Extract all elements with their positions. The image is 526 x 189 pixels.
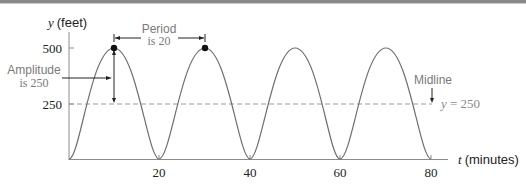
amplitude-label-line2: is 250 — [19, 76, 48, 90]
period-label-line2: is 20 — [147, 34, 170, 48]
xtick-60-label: 60 — [334, 165, 347, 180]
midline-label: Midline — [414, 73, 452, 87]
peak-point-2 — [202, 45, 208, 51]
period-arrowhead-left — [115, 36, 120, 40]
y-axis-label: y(feet) — [46, 15, 87, 30]
ytick-500-label: 500 — [43, 41, 63, 56]
xtick-20-label: 20 — [153, 165, 166, 180]
period-arrowhead-right — [199, 36, 204, 40]
midline-pointer-arrowhead — [430, 98, 434, 103]
ytick-250-label: 250 — [43, 97, 63, 112]
amplitude-label-line1: Amplitude — [7, 63, 61, 77]
xtick-80-label: 80 — [425, 165, 438, 180]
x-axis-label: t(minutes) — [458, 152, 519, 167]
chart: y(feet) 500 250 20 40 60 80 t(minutes) P… — [0, 0, 526, 189]
xtick-40-label: 40 — [244, 165, 257, 180]
amplitude-arrowhead-down — [112, 98, 116, 103]
midline-equation: y = 250 — [439, 96, 480, 111]
amplitude-pointer-arrowhead — [106, 76, 112, 80]
